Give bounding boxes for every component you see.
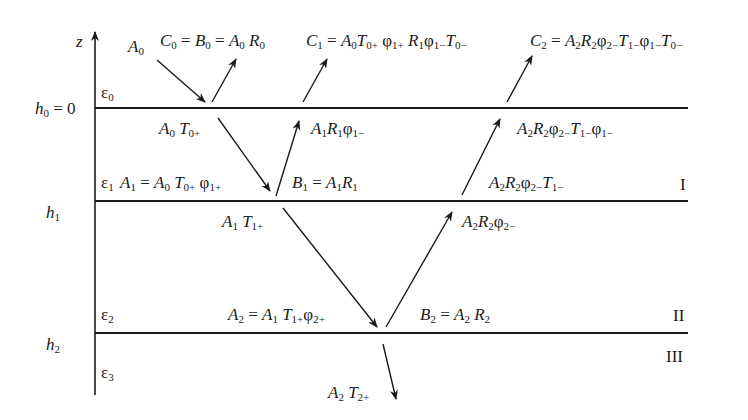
wave-label-A0: A0 bbox=[128, 38, 144, 57]
arrow-output-C1 bbox=[303, 59, 327, 102]
wave-label-C2: C2 = A2R2φ2−T1−φ1−T0− bbox=[530, 32, 682, 51]
wave-label-A1T1: A1 T1+ bbox=[222, 213, 263, 232]
wave-label-A1R1phi: A1R1φ1− bbox=[311, 120, 364, 139]
wave-label-C1: C1 = A0T0+ φ1+ R1φ1−T0− bbox=[306, 32, 467, 51]
arrow-output-C2 bbox=[507, 56, 532, 102]
wave-label-A2: A2 = A1 T1+φ2+ bbox=[228, 306, 325, 325]
medium-label-e3: ε3 bbox=[101, 364, 114, 383]
axis-label-z: z bbox=[76, 33, 83, 50]
region-label-I: I bbox=[680, 176, 686, 193]
arrow-transmitted-A2T2 bbox=[383, 344, 396, 399]
arrow-transmitted-A0T0 bbox=[218, 118, 270, 191]
wave-label-A1: A1 = A0 T0+ φ1+ bbox=[120, 174, 221, 193]
wave-label-A2R2phi2T1: A2R2φ2−T1− bbox=[489, 174, 564, 193]
wave-label-C0: C0 = B0 = A0 R0 bbox=[160, 32, 265, 51]
medium-label-e2: ε2 bbox=[101, 306, 114, 325]
wave-label-A2T2: A2 T2+ bbox=[328, 384, 369, 403]
region-label-III: III bbox=[666, 348, 683, 365]
arrow-incident-A0 bbox=[157, 60, 205, 102]
wave-label-A2R2phi2T1phi1: A2R2φ2−T1−φ1− bbox=[517, 120, 613, 139]
wave-label-A2R2phi2: A2R2φ2− bbox=[462, 213, 515, 232]
medium-label-e1: ε1 bbox=[101, 174, 114, 193]
interface-label-h1: h1 bbox=[46, 204, 60, 223]
diagram-canvas bbox=[0, 0, 748, 420]
wave-label-A0T0: A0 T0+ bbox=[159, 120, 200, 139]
wave-label-B1: B1 = A1R1 bbox=[292, 174, 358, 193]
medium-label-e0: ε0 bbox=[101, 84, 114, 103]
interface-label-h0: h0 = 0 bbox=[35, 100, 76, 119]
interface-label-h2: h2 bbox=[46, 336, 60, 355]
arrow-reflected-C0 bbox=[212, 59, 236, 102]
wave-label-B2: B2 = A2 R2 bbox=[420, 306, 490, 325]
region-label-II: II bbox=[673, 307, 684, 324]
